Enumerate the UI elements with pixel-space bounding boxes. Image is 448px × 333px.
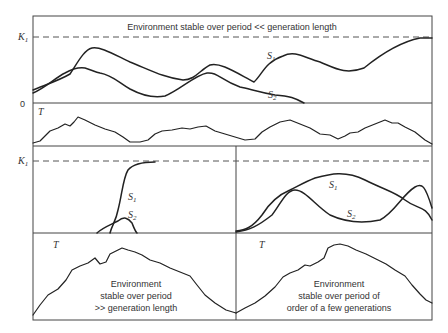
top-s2-label: S2 — [268, 89, 277, 102]
svg-text:>> generation length: >> generation length — [95, 303, 178, 313]
k1-label-top: K1 — [17, 31, 28, 44]
population-environment-diagram: Environment stable over period << genera… — [0, 0, 448, 333]
right-t-label: T — [259, 239, 266, 250]
svg-text:Environment: Environment — [314, 279, 365, 289]
left-s1-label: S1 — [128, 191, 137, 204]
zero-label: 0 — [20, 99, 25, 109]
k1-label-lower: K1 — [17, 155, 28, 168]
svg-text:stable over period: stable over period — [100, 291, 172, 301]
left-caption: Environment stable over period >> genera… — [95, 279, 178, 313]
top-s2-curve — [33, 68, 304, 103]
top-t-label: T — [38, 106, 45, 117]
top-panel-caption: Environment stable over period << genera… — [127, 22, 337, 32]
right-caption: Environment stable over period of order … — [287, 279, 392, 313]
top-s1-label: S1 — [267, 50, 276, 63]
left-s2-curve — [97, 218, 137, 233]
svg-text:Environment: Environment — [111, 279, 162, 289]
svg-text:stable over period of: stable over period of — [298, 291, 380, 301]
svg-text:order of a few generations: order of a few generations — [287, 303, 392, 313]
top-t-curve — [33, 117, 432, 144]
right-s1-label: S1 — [329, 179, 338, 192]
right-s1-curve — [236, 174, 432, 231]
top-s1-curve — [33, 38, 432, 90]
right-s2-label: S2 — [347, 208, 356, 221]
left-t-label: T — [53, 239, 60, 250]
